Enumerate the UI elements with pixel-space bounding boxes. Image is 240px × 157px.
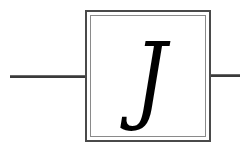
block-inner-border: J: [90, 15, 206, 137]
block-outer-border: J: [85, 10, 211, 142]
block-symbol: J: [134, 30, 167, 126]
input-connector-line: [10, 75, 86, 78]
output-connector-line: [210, 74, 240, 77]
